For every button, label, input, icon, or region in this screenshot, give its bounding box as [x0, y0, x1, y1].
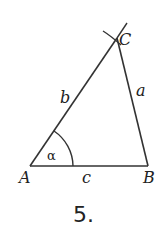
side-label-b: b — [60, 88, 70, 107]
vertex-label-b: B — [142, 168, 155, 187]
vertex-label-a: A — [17, 168, 31, 187]
triangle-diagram: A B C a b c α 5. — [0, 0, 165, 229]
side-label-c: c — [82, 168, 91, 187]
figure-number: 5. — [73, 202, 94, 227]
vertex-label-c: C — [119, 30, 131, 49]
side-a — [117, 38, 148, 166]
side-label-a: a — [136, 81, 146, 100]
angle-arc — [54, 131, 73, 166]
angle-label-alpha: α — [47, 148, 56, 163]
side-b — [30, 38, 117, 166]
